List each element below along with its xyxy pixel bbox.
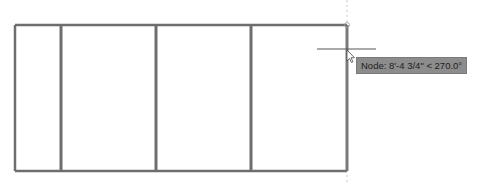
mullions[interactable] (61, 25, 251, 171)
snap-tooltip: Node: 8'-4 3/4" < 270.0° (356, 57, 467, 74)
curtain-wall-frame[interactable] (15, 25, 347, 171)
drawing-canvas[interactable] (0, 0, 478, 184)
